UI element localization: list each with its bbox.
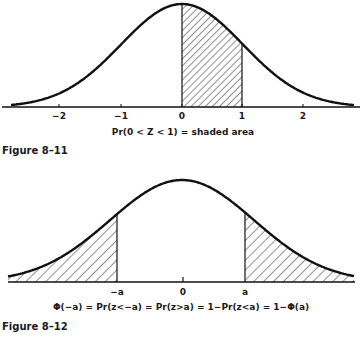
fig1-label: Figure 8–11: [2, 145, 68, 156]
fig1-tick-label: 2: [300, 111, 306, 121]
fig1-tick-label: 1: [239, 111, 245, 121]
fig1-tick-label: 0: [179, 111, 185, 121]
fig1-tick-label: −2: [52, 111, 66, 121]
fig2-tick-label: 0: [180, 287, 186, 297]
fig1-caption: Pr(0 < Z < 1) = shaded area: [112, 127, 254, 137]
fig2-tick-label: −a: [110, 287, 124, 297]
fig2-tick-label: a: [242, 287, 248, 297]
figure-8-12-plot: [8, 180, 355, 282]
fig1-tick-label: −1: [114, 111, 128, 121]
fig2-label: Figure 8–12: [2, 321, 68, 332]
shaded-area: [182, 4, 242, 107]
fig2-caption: Φ(−a) = Pr(z<−a) = Pr(z>a) = 1−Pr(z<a) =…: [53, 302, 309, 312]
figure-8-11-plot: [2, 4, 360, 107]
